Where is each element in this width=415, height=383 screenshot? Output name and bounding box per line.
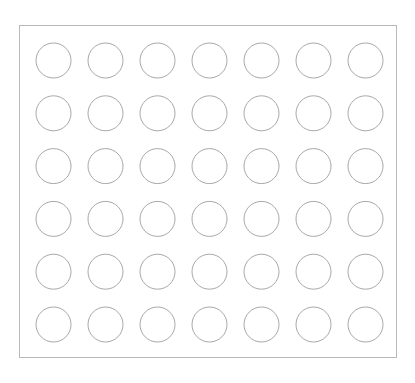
circle-cell	[36, 254, 71, 289]
circle-cell	[36, 201, 71, 236]
circle-cell	[348, 149, 383, 184]
circle-cell	[244, 43, 279, 78]
circle-cell	[88, 149, 123, 184]
circle-cell	[140, 201, 175, 236]
circle-cell	[244, 96, 279, 131]
circle-cell	[244, 149, 279, 184]
circle-cell	[296, 201, 331, 236]
circle-cell	[36, 43, 71, 78]
circle-cell	[36, 149, 71, 184]
circle-cell	[140, 43, 175, 78]
circle-cell	[296, 254, 331, 289]
circle-cell	[88, 96, 123, 131]
circle-cell	[348, 307, 383, 342]
circle-cell	[192, 307, 227, 342]
circle-cell	[348, 254, 383, 289]
circle-cell	[88, 254, 123, 289]
circle-cell	[244, 254, 279, 289]
circle-cell	[192, 201, 227, 236]
circle-cell	[192, 254, 227, 289]
circle-cell	[296, 307, 331, 342]
circle-cell	[140, 307, 175, 342]
circle-grid	[0, 0, 415, 383]
circle-cell	[348, 96, 383, 131]
circle-cell	[140, 254, 175, 289]
circle-cell	[296, 96, 331, 131]
circle-cell	[88, 201, 123, 236]
circle-cell	[88, 43, 123, 78]
circle-cell	[140, 149, 175, 184]
circle-cell	[192, 149, 227, 184]
circle-cell	[88, 307, 123, 342]
circle-cell	[244, 307, 279, 342]
circle-cell	[244, 201, 279, 236]
circle-cell	[348, 43, 383, 78]
circle-cell	[296, 149, 331, 184]
circle-cell	[36, 96, 71, 131]
circle-cell	[36, 307, 71, 342]
circle-cell	[348, 201, 383, 236]
circle-cell	[192, 43, 227, 78]
circle-cell	[296, 43, 331, 78]
circle-cell	[140, 96, 175, 131]
circle-cell	[192, 96, 227, 131]
